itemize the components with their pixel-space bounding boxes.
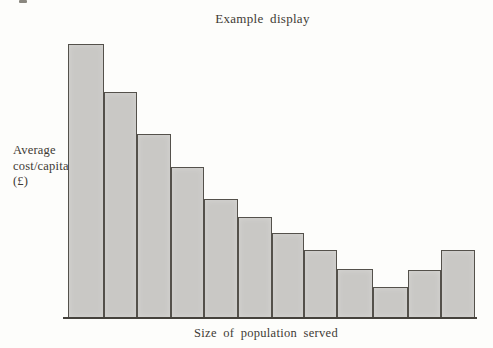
bar-7 — [272, 233, 304, 318]
bar-11 — [408, 270, 441, 318]
bar-2 — [104, 92, 137, 318]
x-axis-line — [63, 317, 477, 319]
bar-4 — [171, 167, 204, 318]
bar-1 — [68, 44, 104, 318]
plot-area — [0, 0, 493, 348]
bar-5 — [204, 199, 238, 318]
x-axis-label: Size of population served — [166, 326, 366, 341]
bar-10 — [373, 287, 408, 318]
histogram-figure: Example display Average cost/capita (£) … — [0, 0, 493, 348]
bar-6 — [238, 217, 272, 318]
bar-9 — [337, 269, 373, 318]
bar-8 — [304, 250, 337, 318]
bar-3 — [137, 134, 171, 318]
bar-12 — [441, 250, 475, 318]
